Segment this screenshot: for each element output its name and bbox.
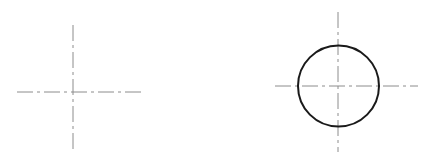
- right-figure-circle-with-crosshair: [275, 12, 418, 152]
- technical-drawing-canvas: [0, 0, 440, 163]
- left-figure-crosshair: [17, 25, 143, 152]
